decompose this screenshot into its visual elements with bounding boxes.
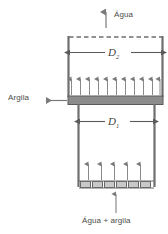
diameter-upper-label: D2 xyxy=(108,47,119,61)
bottom-inlet-label: Água + argila xyxy=(82,217,131,225)
process-diagram: Água Argila Água + argila D2 D1 xyxy=(0,0,168,234)
diameter-upper-letter: D xyxy=(108,46,116,58)
diameter-upper-subscript: 2 xyxy=(116,53,119,60)
side-outlet-label: Argila xyxy=(8,94,29,102)
diameter-lower-letter: D xyxy=(108,115,116,127)
lower-chamber-flow-arrows xyxy=(89,164,141,180)
top-outlet-label: Água xyxy=(114,11,133,19)
diameter-lower-subscript: 1 xyxy=(116,122,119,129)
distributor-plate xyxy=(79,181,154,188)
clay-layer-band xyxy=(68,96,163,105)
diagram-canvas xyxy=(0,0,168,234)
diameter-lower-label: D1 xyxy=(108,116,119,130)
upper-chamber-flow-arrows xyxy=(72,79,161,95)
